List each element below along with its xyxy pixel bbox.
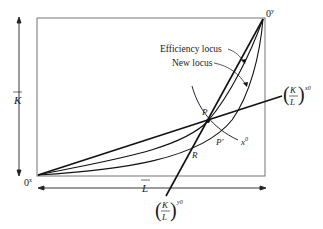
- edgeworth-box: [37, 18, 265, 176]
- svg-text:x0: x0: [304, 85, 311, 91]
- point-p-label: P: [201, 107, 208, 117]
- isoquant-label: x0: [240, 136, 248, 147]
- svg-text:): ): [170, 199, 177, 222]
- svg-text:K: K: [289, 85, 297, 95]
- efficiency-locus-curve: [38, 19, 263, 175]
- new-locus-leader: [214, 63, 246, 85]
- l-dimension-arrow: [38, 186, 266, 190]
- new-locus-label: New locus: [172, 58, 213, 68]
- point-r-label: R: [191, 150, 198, 160]
- svg-text:y0: y0: [176, 199, 183, 205]
- ray-y0-label: ( K L ) y0: [155, 199, 183, 222]
- origin-y-label: 0y: [266, 8, 274, 19]
- svg-text:): ): [298, 83, 305, 106]
- svg-text:L: L: [289, 97, 295, 107]
- l-axis-label: L: [141, 182, 148, 194]
- svg-text:K: K: [161, 200, 169, 210]
- svg-text:L: L: [161, 212, 167, 222]
- svg-text:(: (: [155, 199, 162, 222]
- point-p-dot: [206, 119, 210, 123]
- new-locus-curve: [38, 19, 263, 175]
- svg-text:(: (: [283, 83, 290, 106]
- origin-x-label: 0x: [24, 177, 32, 188]
- edgeworth-box-diagram: 0x 0y K L Efficiency locus New locus P P…: [0, 0, 323, 229]
- ray-x0-label: ( K L ) x0: [283, 83, 311, 107]
- efficiency-locus-label: Efficiency locus: [160, 44, 222, 54]
- k-axis-label: K: [13, 94, 22, 106]
- point-p-prime-label: P': [215, 137, 224, 147]
